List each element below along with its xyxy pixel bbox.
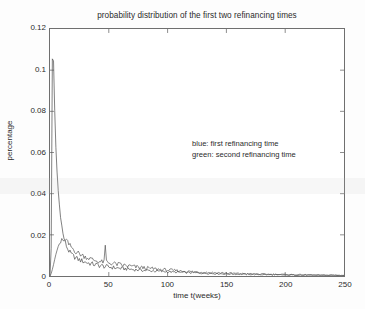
x-axis-label: time t(weeks) bbox=[49, 291, 345, 300]
x-tick-label: 250 bbox=[323, 280, 365, 289]
x-tick-label: 0 bbox=[27, 280, 71, 289]
y-axis-label: percentage bbox=[5, 111, 14, 171]
x-tick-label: 200 bbox=[264, 280, 308, 289]
y-tick-label: 0.1 bbox=[2, 65, 46, 74]
legend-entry-first-refinancing: blue: first refinancing time bbox=[192, 139, 296, 150]
x-tick-label: 50 bbox=[86, 280, 130, 289]
y-tick-label: 0.04 bbox=[2, 189, 46, 198]
series-line-first bbox=[50, 59, 344, 276]
x-tick-label: 150 bbox=[205, 280, 249, 289]
series-line-second bbox=[50, 239, 344, 276]
x-tick-label: 100 bbox=[145, 280, 189, 289]
legend-entry-second-refinancing: green: second refinancing time bbox=[192, 150, 296, 161]
y-tick-label: 0.12 bbox=[2, 23, 46, 32]
chart-figure: probability distribution of the first tw… bbox=[0, 0, 365, 309]
y-tick-label: 0 bbox=[2, 272, 46, 281]
chart-title: probability distribution of the first tw… bbox=[49, 11, 345, 20]
y-tick-label: 0.02 bbox=[2, 231, 46, 240]
chart-legend: blue: first refinancing time green: seco… bbox=[192, 139, 296, 160]
